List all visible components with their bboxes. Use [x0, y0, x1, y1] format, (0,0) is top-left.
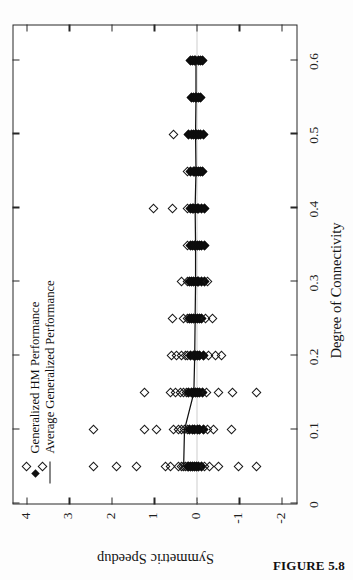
- legend-label-0: Generalized HM Performance: [26, 301, 42, 453]
- x-tick-4: [290, 206, 297, 207]
- line-marker-icon: [44, 459, 56, 485]
- y-tick-label-3: 1: [144, 512, 160, 538]
- y-tick-right-1: [68, 24, 69, 31]
- x-tick-top-2: [12, 354, 19, 355]
- chart-area: Generalized HM Performance Average Gener…: [0, 0, 353, 580]
- y-tick-label-0: 4: [17, 512, 33, 538]
- figure-caption: FIGURE 5.8: [273, 558, 345, 574]
- chart-legend: Generalized HM Performance Average Gener…: [27, 280, 57, 485]
- x-tick-label-0: 0: [305, 501, 321, 508]
- x-tick-2: [290, 354, 297, 355]
- y-tick-right-4: [196, 24, 197, 31]
- y-tick-0: [26, 497, 27, 504]
- x-tick-6: [290, 59, 297, 60]
- x-tick-label-3: 0.3: [305, 274, 321, 291]
- y-tick-label-2: 2: [102, 512, 118, 538]
- y-tick-3: [153, 497, 154, 504]
- y-tick-right-6: [281, 24, 282, 31]
- y-tick-6: [281, 497, 282, 504]
- x-tick-label-5: 0.5: [305, 126, 321, 143]
- x-tick-top-0: [12, 502, 19, 503]
- legend-label-1: Average Generalized Performance: [41, 280, 57, 453]
- y-tick-label-4: 0: [187, 512, 203, 538]
- plot-frame: Generalized HM Performance Average Gener…: [12, 24, 297, 504]
- y-tick-5: [238, 497, 239, 504]
- legend-item-0: Generalized HM Performance: [27, 280, 42, 485]
- diamond-marker-icon: [29, 459, 41, 485]
- y-tick-2: [111, 497, 112, 504]
- x-axis-title: Degree of Connectivity: [327, 0, 344, 580]
- y-tick-4: [196, 497, 197, 504]
- legend-item-1: Average Generalized Performance: [42, 280, 57, 485]
- figure-page: Generalized HM Performance Average Gener…: [0, 0, 353, 580]
- y-tick-1: [68, 497, 69, 504]
- x-tick-top-5: [12, 132, 19, 133]
- x-tick-0: [290, 502, 297, 503]
- x-tick-top-3: [12, 280, 19, 281]
- x-tick-label-4: 0.4: [305, 200, 321, 217]
- y-tick-label-1: 3: [59, 512, 75, 538]
- y-tick-right-3: [153, 24, 154, 31]
- x-tick-top-1: [12, 428, 19, 429]
- y-tick-label-6: -2: [272, 512, 288, 538]
- x-tick-1: [290, 428, 297, 429]
- y-tick-right-2: [111, 24, 112, 31]
- x-tick-label-6: 0.6: [305, 53, 321, 70]
- average-line-path: [183, 60, 195, 466]
- x-tick-label-2: 0.2: [305, 348, 321, 365]
- y-tick-label-5: -1: [229, 512, 245, 538]
- x-tick-label-1: 0.1: [305, 422, 321, 439]
- x-tick-top-6: [12, 59, 19, 60]
- rotated-figure-canvas: Generalized HM Performance Average Gener…: [0, 0, 353, 580]
- x-tick-5: [290, 132, 297, 133]
- y-tick-right-0: [26, 24, 27, 31]
- x-tick-3: [290, 280, 297, 281]
- y-tick-right-5: [238, 24, 239, 31]
- y-axis-title: Symmetric Speedup: [96, 550, 213, 567]
- x-tick-top-4: [12, 206, 19, 207]
